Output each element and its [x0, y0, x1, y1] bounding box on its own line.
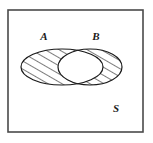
- venn-diagram-figure: A B S: [0, 0, 153, 143]
- set-b-label: B: [91, 30, 99, 42]
- universal-set-label: S: [113, 102, 119, 114]
- set-a-label: A: [39, 30, 47, 42]
- set-b-hatch-fill: [0, 0, 153, 143]
- venn-diagram-canvas: A B S: [0, 0, 153, 143]
